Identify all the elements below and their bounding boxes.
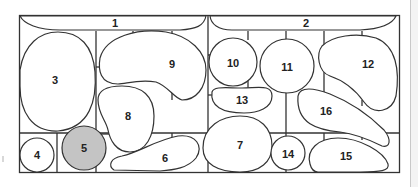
svg-text:3: 3 [52,74,58,86]
svg-text:5: 5 [81,142,87,154]
svg-text:14: 14 [282,148,295,160]
region-3[interactable]: 3 [20,32,95,131]
region-13[interactable]: 13 [212,87,272,113]
region-4[interactable]: 4 [20,138,54,172]
region-5[interactable]: 5 [62,126,106,170]
svg-text:7: 7 [237,139,243,151]
region-11[interactable]: 11 [260,39,314,93]
svg-text:15: 15 [340,150,352,162]
svg-text:12: 12 [362,58,374,70]
svg-text:4: 4 [34,149,41,161]
region-1[interactable]: 1 [20,16,206,30]
svg-text:9: 9 [169,58,175,70]
svg-text:16: 16 [320,105,332,117]
region-diagram: 1 2 3 9 8 4 5 6 10 11 [0,0,418,187]
svg-text:13: 13 [236,94,248,106]
svg-text:2: 2 [303,17,309,29]
svg-text:6: 6 [162,152,168,164]
region-7[interactable]: 7 [203,116,272,172]
svg-text:8: 8 [125,110,131,122]
region-14[interactable]: 14 [271,136,305,170]
region-8[interactable]: 8 [98,86,154,152]
svg-text:1: 1 [112,17,118,29]
svg-text:10: 10 [227,57,239,69]
svg-text:11: 11 [281,61,293,73]
region-10[interactable]: 10 [209,38,257,86]
region-2[interactable]: 2 [210,16,396,30]
